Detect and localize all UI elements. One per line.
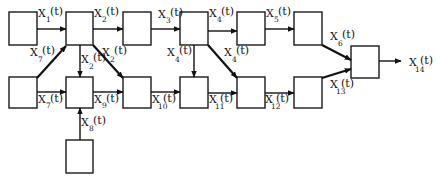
svg-text:(t): (t) <box>50 92 63 105</box>
svg-text:X: X <box>94 7 102 20</box>
label-x11: X 11 (t) <box>209 92 233 111</box>
svg-text:X: X <box>158 8 166 21</box>
svg-text:X: X <box>102 46 110 59</box>
svg-text:(t): (t) <box>179 44 192 57</box>
label-x14: X 14 (t) <box>409 54 433 74</box>
block-b12 <box>294 77 322 108</box>
svg-text:(t): (t) <box>163 92 176 105</box>
block-b5 <box>237 12 265 45</box>
block-b8 <box>66 77 93 108</box>
block-b9 <box>123 77 151 108</box>
svg-text:(t): (t) <box>220 92 233 105</box>
block-b7 <box>9 77 37 108</box>
svg-text:(t): (t) <box>170 6 183 19</box>
svg-text:(t): (t) <box>93 114 106 127</box>
flow-diagram: X 1 (t) X 2 (t) X 3 (t) X 4 (t) X 5 (t) … <box>0 0 436 182</box>
label-x3: X 3 (t) <box>158 6 183 25</box>
svg-text:X: X <box>38 7 46 20</box>
block-b2 <box>66 12 93 45</box>
svg-text:(t): (t) <box>420 54 433 67</box>
svg-text:X: X <box>38 93 46 106</box>
label-x6: X 6 (t) <box>330 28 355 48</box>
svg-text:X: X <box>209 7 217 20</box>
label-x5: X 5 (t) <box>266 5 291 24</box>
block-b6 <box>294 12 322 45</box>
block-b14-output <box>351 46 379 78</box>
svg-text:(t): (t) <box>221 5 234 18</box>
label-x4-down: X 4 (t) <box>167 44 192 64</box>
svg-text:(t): (t) <box>236 44 249 57</box>
svg-text:(t): (t) <box>42 44 55 57</box>
svg-text:X: X <box>94 93 102 106</box>
svg-text:X: X <box>81 53 89 66</box>
svg-text:X: X <box>30 46 38 59</box>
svg-text:X: X <box>81 116 89 129</box>
label-x1: X 1 (t) <box>38 5 63 24</box>
label-x10: X 10 (t) <box>152 92 176 111</box>
svg-text:(t): (t) <box>106 92 119 105</box>
block-b4 <box>180 12 208 45</box>
label-x9: X 9 (t) <box>94 92 119 110</box>
svg-text:X: X <box>330 30 338 43</box>
svg-text:X: X <box>266 7 274 20</box>
svg-text:(t): (t) <box>106 5 119 18</box>
svg-text:(t): (t) <box>50 5 63 18</box>
label-x2-top: X 2 (t) <box>94 5 119 24</box>
block-b11 <box>237 77 265 108</box>
svg-text:(t): (t) <box>278 5 291 18</box>
label-x4-top: X 4 (t) <box>209 5 234 24</box>
block-b10 <box>180 77 208 108</box>
svg-text:X: X <box>224 46 232 59</box>
block-b13 <box>66 140 93 173</box>
svg-text:(t): (t) <box>276 92 289 105</box>
label-x4-diag: X 4 (t) <box>224 44 249 64</box>
block-b1 <box>9 12 37 45</box>
label-x13: X 13 (t) <box>330 77 354 96</box>
label-x7-bottom: X 7 (t) <box>38 92 63 110</box>
label-x12: X 12 (t) <box>265 92 289 111</box>
block-b3 <box>123 12 151 45</box>
svg-text:(t): (t) <box>114 44 127 57</box>
svg-text:(t): (t) <box>341 77 354 90</box>
label-x8: X 8 (t) <box>81 114 106 133</box>
svg-text:(t): (t) <box>342 28 355 41</box>
edge-x6-diag-arrow <box>322 45 351 60</box>
svg-text:X: X <box>167 46 175 59</box>
